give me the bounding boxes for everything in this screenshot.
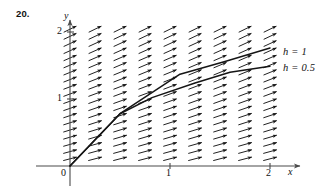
slope-field-arrow bbox=[113, 150, 127, 154]
slope-field-arrow bbox=[138, 150, 152, 154]
slope-field-arrow bbox=[163, 143, 176, 147]
slope-field-arrow bbox=[189, 33, 202, 39]
slope-field-arrow bbox=[213, 121, 226, 125]
slope-field-arrow bbox=[239, 62, 252, 67]
slope-field-arrow bbox=[138, 135, 151, 139]
figure-container: 20. y x 2 1 0 1 bbox=[0, 0, 325, 186]
slope-field-arrow bbox=[88, 121, 101, 125]
slope-field-arrow bbox=[264, 33, 277, 39]
slope-field-arrow bbox=[163, 135, 176, 139]
slope-field-arrow bbox=[213, 92, 226, 97]
slope-field-arrow bbox=[263, 99, 276, 104]
slope-field-arrow bbox=[264, 70, 277, 75]
slope-field-arrow bbox=[239, 33, 252, 39]
slope-field-arrow bbox=[188, 150, 202, 154]
slope-field-arrow bbox=[138, 157, 152, 161]
slope-field-arrow bbox=[138, 77, 151, 82]
x-tick-label-2: 2 bbox=[266, 167, 271, 178]
slope-field-arrow bbox=[213, 99, 226, 104]
slope-field-arrow bbox=[213, 128, 226, 132]
slope-field-arrow bbox=[88, 128, 101, 132]
slope-field-arrow bbox=[238, 113, 251, 117]
slope-field-arrow bbox=[264, 41, 277, 47]
slope-field-arrow bbox=[113, 157, 127, 161]
slope-field-arrow bbox=[88, 84, 101, 89]
slope-field-arrow bbox=[213, 113, 226, 117]
slope-field-arrow bbox=[89, 41, 102, 47]
slope-field-arrow bbox=[163, 121, 176, 125]
slope-field-arrow bbox=[188, 113, 201, 117]
slope-field-arrow bbox=[239, 41, 252, 47]
slope-field-arrow bbox=[238, 128, 251, 132]
slope-field-arrow bbox=[138, 143, 151, 147]
slope-field-arrow bbox=[238, 106, 251, 111]
slope-field-arrow bbox=[263, 121, 276, 125]
slope-field-arrow bbox=[113, 128, 126, 132]
slope-field-arrow bbox=[164, 48, 177, 54]
slope-field-arrow bbox=[164, 55, 177, 61]
slope-field-arrow bbox=[163, 157, 177, 161]
slope-field-arrow bbox=[88, 92, 101, 97]
slope-field-arrow bbox=[139, 70, 152, 75]
slope-field-arrow bbox=[213, 77, 226, 82]
slope-field-arrow bbox=[238, 99, 251, 104]
slope-field-arrow bbox=[164, 26, 177, 32]
y-tick-label-2: 2 bbox=[57, 25, 62, 36]
slope-field-arrow bbox=[213, 84, 226, 89]
slope-field-arrow bbox=[188, 128, 201, 132]
slope-field-arrow bbox=[89, 55, 102, 61]
slope-field-arrow bbox=[138, 84, 151, 89]
slope-field-arrow bbox=[138, 121, 151, 125]
slope-field-arrow bbox=[238, 77, 251, 82]
slope-field-arrow bbox=[263, 113, 276, 117]
slope-field-arrow bbox=[238, 157, 252, 161]
slope-field-arrow bbox=[164, 70, 177, 75]
slope-field-arrow bbox=[88, 106, 101, 111]
slope-field-arrow bbox=[188, 143, 201, 147]
slope-field-arrow bbox=[163, 128, 176, 132]
slope-field-arrow bbox=[113, 135, 126, 139]
y-tick-label-1: 1 bbox=[57, 92, 62, 103]
slope-field-arrow bbox=[239, 26, 252, 32]
slope-field-arrow bbox=[163, 113, 176, 117]
slope-field-arrow bbox=[214, 48, 227, 54]
slope-field-arrow bbox=[238, 150, 252, 154]
slope-field-arrow bbox=[139, 62, 152, 67]
slope-field-arrow bbox=[164, 62, 177, 67]
slope-field-arrow bbox=[213, 143, 226, 147]
slope-field-arrow bbox=[114, 48, 127, 54]
slope-field-arrow bbox=[113, 92, 126, 97]
slope-field-arrow bbox=[189, 62, 202, 67]
slope-field-arrow bbox=[264, 26, 277, 32]
slope-field-arrow bbox=[89, 70, 102, 75]
slope-field-arrow bbox=[188, 135, 201, 139]
slope-field-arrow bbox=[188, 157, 202, 161]
slope-field-arrow bbox=[113, 99, 126, 104]
x-tick-label-1: 1 bbox=[166, 167, 171, 178]
slope-field-arrow bbox=[139, 41, 152, 47]
legend-label-h-1: h = 1 bbox=[283, 46, 307, 57]
slope-field-arrow bbox=[163, 150, 177, 154]
slope-field-arrow bbox=[164, 41, 177, 47]
slope-field-arrow bbox=[89, 33, 102, 39]
slope-field-arrow bbox=[113, 121, 126, 125]
slope-field-arrow bbox=[89, 48, 102, 54]
slope-field-arrow bbox=[139, 55, 152, 61]
slope-field-arrow bbox=[114, 55, 127, 61]
slope-field-arrow bbox=[163, 84, 176, 89]
slope-field-arrow bbox=[263, 128, 276, 132]
slope-field-arrow bbox=[263, 150, 277, 154]
slope-field-arrow bbox=[88, 157, 102, 161]
slope-field-arrow bbox=[163, 99, 176, 104]
slope-field-arrow bbox=[189, 26, 202, 32]
slope-field-arrow bbox=[188, 92, 201, 97]
slope-field-arrow bbox=[113, 77, 126, 82]
slope-field-arrow bbox=[214, 26, 227, 32]
slope-field-arrow bbox=[238, 84, 251, 89]
slope-field-arrow bbox=[213, 157, 227, 161]
slope-field-arrow bbox=[263, 143, 276, 147]
slope-field-arrow bbox=[238, 121, 251, 125]
slope-field-arrow bbox=[138, 106, 151, 111]
slope-field-arrow bbox=[263, 135, 276, 139]
slope-field-arrow bbox=[139, 33, 152, 39]
